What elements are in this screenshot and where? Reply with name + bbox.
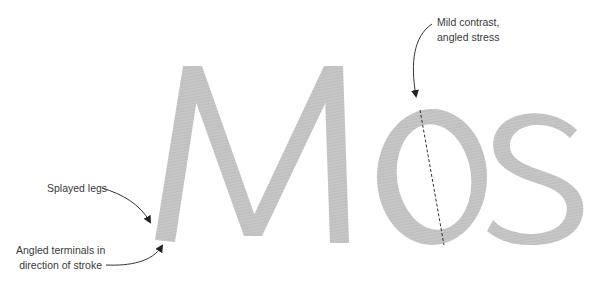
- annotation-splayed-legs: Splayed legs: [47, 181, 107, 196]
- angled-terminals-arrow: [106, 246, 162, 265]
- annotation-line: Splayed legs: [47, 182, 107, 194]
- splayed-legs-arrow: [102, 188, 150, 222]
- glyph-o: [377, 109, 487, 245]
- annotation-line: angled stress: [437, 30, 499, 45]
- angled-stress-arrow: [413, 24, 432, 96]
- annotation-line: direction of stroke: [16, 258, 102, 273]
- glyph-M: [155, 66, 349, 243]
- annotation-angled-terminals: Angled terminals in direction of stroke: [16, 243, 102, 273]
- annotation-angled-stress: Mild contrast, angled stress: [437, 15, 499, 45]
- glyph-s: [487, 113, 583, 245]
- annotation-line: Mild contrast,: [437, 15, 499, 30]
- annotation-line: Angled terminals in: [16, 243, 102, 258]
